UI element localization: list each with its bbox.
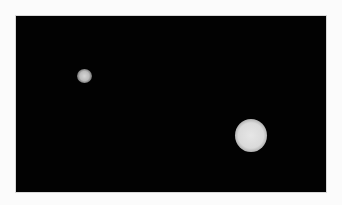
small-bright-spot bbox=[77, 69, 92, 83]
image-frame: Two bright circular spots on a black bac… bbox=[15, 15, 327, 193]
large-bright-spot bbox=[235, 119, 267, 152]
